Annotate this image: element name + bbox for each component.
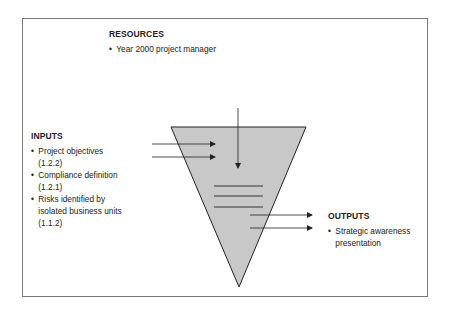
resources-heading: RESOURCES [109,28,164,39]
input-item-risks-identified: Risks identified by isolated business un… [31,193,122,229]
input-item-compliance-definition: Compliance definition (1.2.1) [31,169,122,193]
outputs-list: Strategic awareness presentation [328,225,410,249]
inputs-heading: INPUTS [31,130,63,141]
outputs-heading: OUTPUTS [328,210,369,221]
output-item-strategic-awareness: Strategic awareness presentation [328,225,410,249]
inputs-list: Project objectives (1.2.2) Compliance de… [31,145,122,229]
input-item-project-objectives: Project objectives (1.2.2) [31,145,122,169]
resources-item: Year 2000 project manager [109,43,216,55]
resources-list: Year 2000 project manager [109,43,216,55]
